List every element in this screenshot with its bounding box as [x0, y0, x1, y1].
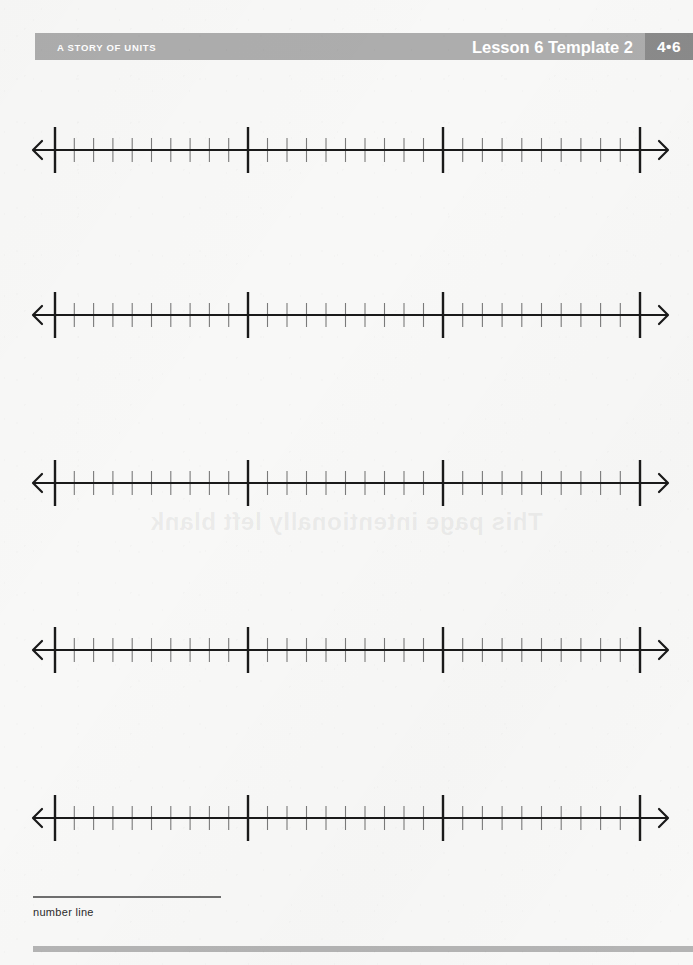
number-line-5 — [0, 790, 693, 846]
number-line-4 — [0, 622, 693, 678]
caption-label: number line — [33, 906, 94, 918]
number-line-3 — [0, 455, 693, 511]
number-line-1 — [0, 122, 693, 178]
showthrough-watermark: This page intentionally left blank — [0, 508, 693, 536]
lesson-label: Lesson 6 Template 2 — [472, 37, 633, 56]
series-title: A STORY OF UNITS — [57, 41, 156, 52]
caption-rule — [33, 896, 221, 898]
footer-bar — [33, 946, 693, 952]
page-header: A STORY OF UNITS Lesson 6 Template 2 4•6 — [35, 33, 693, 60]
number-line-2 — [0, 287, 693, 343]
grade-module-badge: 4•6 — [645, 33, 693, 60]
